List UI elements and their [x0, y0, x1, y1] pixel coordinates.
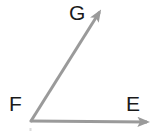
ray-fe [31, 121, 147, 122]
vertex-label-g: G [69, 2, 85, 23]
angle-diagram: F E G [0, 0, 156, 134]
vertex-point-f [29, 119, 32, 122]
vertex-label-f: F [9, 93, 22, 114]
ray-fg [31, 12, 100, 121]
vertex-label-e: E [126, 93, 140, 114]
vertex-tick-mark [30, 128, 32, 131]
